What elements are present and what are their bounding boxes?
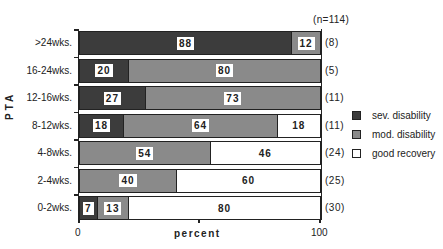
bar-value-label: 46 bbox=[257, 147, 274, 160]
bar-value-label: 54 bbox=[136, 147, 153, 160]
bar-value-label: 18 bbox=[93, 119, 110, 132]
legend-item-sev: sev. disability bbox=[352, 106, 435, 125]
bar-segment-mod: 73 bbox=[145, 87, 320, 109]
legend-item-good: good recovery bbox=[352, 144, 435, 163]
bar-segment-sev: 20 bbox=[80, 60, 128, 82]
bar-value-label: 88 bbox=[177, 37, 194, 50]
y-tick bbox=[74, 84, 78, 86]
y-tick bbox=[74, 112, 78, 114]
category-label: >24wks. bbox=[35, 37, 72, 48]
bar-row: 2080 bbox=[79, 59, 321, 83]
count-label: (11) bbox=[325, 120, 344, 131]
count-label: (11) bbox=[325, 92, 344, 103]
bar-row: 186418 bbox=[79, 114, 321, 138]
bar-segment-mod: 13 bbox=[97, 197, 128, 219]
legend-label: good recovery bbox=[372, 148, 435, 159]
bar-segment-sev: 27 bbox=[80, 87, 145, 109]
legend-swatch-icon bbox=[352, 149, 361, 158]
legend: sev. disabilitymod. disabilitygood recov… bbox=[352, 106, 435, 163]
count-label: (8) bbox=[325, 37, 339, 48]
y-tick bbox=[74, 194, 78, 196]
bar-segment-good: 80 bbox=[128, 197, 320, 219]
bar-value-label: 20 bbox=[95, 64, 112, 77]
bar-value-label: 73 bbox=[224, 92, 241, 105]
category-label: 4-8wks. bbox=[38, 147, 72, 158]
bar-row: 5446 bbox=[79, 141, 321, 165]
category-label: 16-24wks. bbox=[26, 65, 72, 76]
bar-segment-sev: 7 bbox=[80, 197, 97, 219]
bar-segment-sev: 88 bbox=[80, 32, 291, 54]
legend-label: sev. disability bbox=[372, 110, 431, 121]
bar-segment-good: 46 bbox=[210, 142, 320, 164]
bar-segment-mod: 64 bbox=[123, 115, 277, 137]
count-label: (30) bbox=[325, 202, 345, 213]
bar-segment-mod: 12 bbox=[291, 32, 320, 54]
sample-size-annotation: (n=114) bbox=[313, 14, 349, 25]
x-tick-label-100: 100 bbox=[311, 227, 328, 238]
bar-value-label: 12 bbox=[298, 37, 315, 50]
bar-value-label: 64 bbox=[192, 119, 209, 132]
bar-value-label: 27 bbox=[104, 92, 121, 105]
count-label: (24) bbox=[325, 147, 345, 158]
count-label: (25) bbox=[325, 175, 345, 186]
bar-row: 4060 bbox=[79, 169, 321, 193]
x-axis-label: percent bbox=[174, 228, 221, 239]
bar-segment-mod: 40 bbox=[80, 170, 176, 192]
bar-segment-good: 18 bbox=[277, 115, 320, 137]
bar-row: 8812 bbox=[79, 31, 321, 55]
x-tick-label-0: 0 bbox=[75, 227, 81, 238]
legend-label: mod. disability bbox=[372, 129, 435, 140]
bar-segment-mod: 54 bbox=[80, 142, 210, 164]
bar-row: 2773 bbox=[79, 86, 321, 110]
bar-segment-sev: 18 bbox=[80, 115, 123, 137]
bar-value-label: 60 bbox=[240, 174, 257, 187]
x-tick-0 bbox=[78, 219, 80, 223]
count-label: (5) bbox=[325, 65, 339, 76]
bar-row: 71380 bbox=[79, 196, 321, 220]
category-label: 0-2wks. bbox=[38, 202, 72, 213]
category-label: 2-4wks. bbox=[38, 175, 72, 186]
y-tick bbox=[74, 57, 78, 59]
legend-item-mod: mod. disability bbox=[352, 125, 435, 144]
bar-value-label: 7 bbox=[83, 202, 94, 215]
stacked-bar-chart: (n=114) PTA 8812208027731864185446406071… bbox=[0, 0, 443, 249]
x-tick-50 bbox=[198, 219, 200, 223]
legend-swatch-icon bbox=[352, 130, 361, 139]
y-tick bbox=[74, 29, 78, 31]
bar-value-label: 80 bbox=[216, 64, 233, 77]
bar-value-label: 13 bbox=[104, 202, 121, 215]
bar-value-label: 18 bbox=[290, 119, 307, 132]
y-axis-label: PTA bbox=[4, 92, 15, 120]
y-tick bbox=[74, 167, 78, 169]
bar-value-label: 40 bbox=[119, 174, 136, 187]
bar-segment-good: 60 bbox=[176, 170, 320, 192]
bar-value-label: 80 bbox=[216, 202, 233, 215]
legend-swatch-icon bbox=[352, 111, 361, 120]
x-tick-100 bbox=[319, 219, 321, 223]
y-tick bbox=[74, 139, 78, 141]
bar-segment-mod: 80 bbox=[128, 60, 320, 82]
category-label: 12-16wks. bbox=[26, 92, 72, 103]
category-label: 8-12wks. bbox=[32, 120, 72, 131]
plot-area: 8812208027731864185446406071380 bbox=[78, 29, 322, 220]
